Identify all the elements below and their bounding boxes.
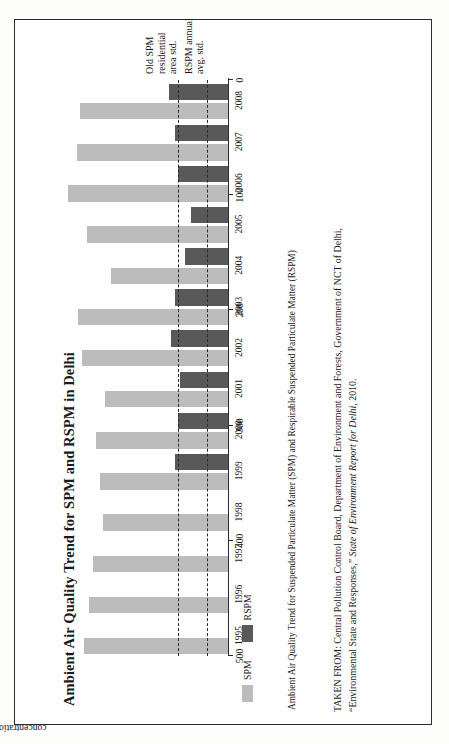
legend-item-spm: SPM: [242, 660, 253, 702]
source-report-title: State of Environment Report for Delhi: [347, 406, 358, 557]
bar-rspm-1999: [175, 454, 228, 470]
bar-spm-2000: [96, 432, 228, 448]
bar-rspm-2002: [171, 330, 228, 346]
source-line-2-pre: “Environmental State and Responses,”: [347, 557, 358, 713]
source-line-2-post: , 2010.: [347, 379, 358, 406]
year-label: 2001: [234, 365, 244, 413]
bar-rspm-2001: [180, 372, 228, 388]
figure-caption: Ambient Air Quality Trend for Suspended …: [283, 70, 301, 710]
reference-line-rspm-std: [207, 80, 208, 656]
value-axis-line: [228, 78, 229, 656]
bar-spm-2003: [78, 309, 228, 325]
year-label: 2000: [234, 406, 244, 454]
axis-tick: [228, 194, 233, 195]
year-label: 1999: [234, 447, 244, 495]
value-axis-title: concentration (µg/m3): [0, 720, 104, 734]
source-line-2: “Environmental State and Responses,” Sta…: [345, 64, 360, 712]
axis-tick: [228, 309, 233, 310]
bar-spm-1997: [93, 556, 228, 572]
annotation-old-spm-std: Old SPM residential area std.: [144, 4, 178, 74]
year-label: 1998: [234, 488, 244, 536]
reference-line-old-spm-std: [178, 80, 179, 656]
legend-label: SPM: [242, 660, 253, 680]
legend-label: RSPM: [242, 594, 253, 620]
source-line-1: TAKEN FROM: Central Pollution Control Bo…: [330, 64, 345, 712]
bar-spm-2004: [111, 268, 228, 284]
bar-spm-2001: [105, 391, 228, 407]
legend-swatch-rspm: [242, 625, 253, 642]
bar-spm-2006: [68, 185, 228, 201]
year-label: 1997: [234, 529, 244, 577]
axis-tick: [228, 425, 233, 426]
bar-rspm-2006: [178, 166, 228, 182]
year-label: 2007: [234, 118, 244, 166]
year-label: 2004: [234, 241, 244, 289]
chart-legend: SPMRSPM: [242, 594, 253, 702]
year-label: 2002: [234, 323, 244, 371]
axis-tick: [228, 540, 233, 541]
source-note: TAKEN FROM: Central Pollution Control Bo…: [330, 64, 374, 712]
year-label: 2003: [234, 282, 244, 330]
bar-rspm-2007: [175, 125, 228, 141]
legend-swatch-spm: [242, 685, 253, 702]
chart-figure: concentration (µg/m3) 0100200300400500 1…: [44, 52, 259, 712]
annotation-rspm-std: RSPM annual avg. std.: [183, 4, 206, 74]
bar-spm-2007: [77, 144, 228, 160]
legend-item-rspm: RSPM: [242, 594, 253, 642]
bar-rspm-2005: [191, 207, 228, 223]
bar-rspm-2003: [175, 289, 228, 305]
page-canvas: Ambient Air Quality Trend for SPM and RS…: [0, 0, 449, 744]
year-label: 2008: [234, 77, 244, 125]
bar-rspm-2000: [178, 413, 228, 429]
axis-tick: [228, 79, 233, 80]
axis-tick: [228, 655, 233, 656]
year-label: 2006: [234, 159, 244, 207]
bar-spm-1998: [103, 514, 228, 530]
bar-spm-1999: [100, 473, 228, 489]
year-label: 2005: [234, 200, 244, 248]
